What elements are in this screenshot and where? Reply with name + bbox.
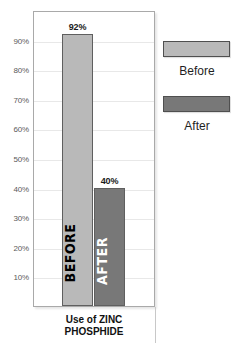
legend-entry-after: After (163, 96, 231, 133)
y-axis-tick-80: 80% (14, 66, 29, 75)
y-axis-tick-40: 40% (14, 184, 29, 193)
bar-before: BEFORE (62, 34, 93, 306)
legend: Before After (163, 41, 231, 151)
legend-label-after: After (163, 119, 231, 133)
caption-divider (155, 307, 156, 343)
y-axis-tick-90: 90% (14, 36, 29, 45)
bar-after-inner-label: AFTER (94, 237, 110, 285)
caption-line-2: PHOSPHIDE (33, 326, 155, 338)
y-axis-tick-30: 30% (14, 214, 29, 223)
y-axis-tick-20: 20% (14, 243, 29, 252)
y-axis-tick-50: 50% (14, 155, 29, 164)
bar-after: AFTER (94, 188, 125, 306)
legend-swatch-after (163, 96, 230, 112)
y-axis-tick-10: 10% (14, 273, 29, 282)
legend-swatch-before (163, 41, 230, 57)
gridline (34, 42, 154, 43)
legend-entry-before: Before (163, 41, 231, 78)
bar-before-value-label: 92% (69, 22, 86, 32)
gridline (34, 101, 154, 102)
gridline (34, 160, 154, 161)
y-axis-tick-70: 70% (14, 95, 29, 104)
gridline (34, 71, 154, 72)
legend-label-before: Before (163, 64, 231, 78)
bar-before-inner-label: BEFORE (62, 224, 78, 283)
y-axis: 90%80%70%60%50%40%30%20%10% (0, 11, 31, 307)
chart-plot-area: BEFORE AFTER 92% 40% (33, 11, 155, 307)
bar-after-value-label: 40% (101, 176, 118, 186)
gridline (34, 130, 154, 131)
y-axis-tick-60: 60% (14, 125, 29, 134)
chart-caption: Use of ZINC PHOSPHIDE (33, 314, 155, 338)
caption-line-1: Use of ZINC (33, 314, 155, 326)
